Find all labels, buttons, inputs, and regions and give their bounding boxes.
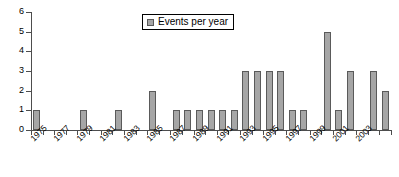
bar (277, 71, 284, 130)
bar (382, 91, 389, 130)
y-axis-labels: 0123456 (0, 0, 24, 177)
y-axis-tick-label: 4 (2, 46, 24, 55)
x-axis-tick (391, 131, 392, 135)
bar (254, 71, 261, 130)
chart-legend: Events per year (142, 14, 234, 30)
bar (266, 71, 273, 130)
events-per-year-bar-chart: 0123456 19751977197919811983198519871989… (0, 0, 399, 177)
bar (347, 71, 354, 130)
legend-swatch-icon (147, 19, 154, 26)
y-axis-tick-label: 1 (2, 105, 24, 114)
y-axis-tick-label: 5 (2, 27, 24, 36)
y-axis-tick-label: 2 (2, 86, 24, 95)
bar (242, 71, 249, 130)
y-axis-tick-label: 3 (2, 66, 24, 75)
y-axis-tick-label: 6 (2, 7, 24, 16)
bar (370, 71, 377, 130)
y-axis-tick-label: 0 (2, 125, 24, 134)
x-axis-tick (379, 131, 380, 135)
bar (324, 32, 331, 130)
legend-label: Events per year (158, 17, 228, 27)
